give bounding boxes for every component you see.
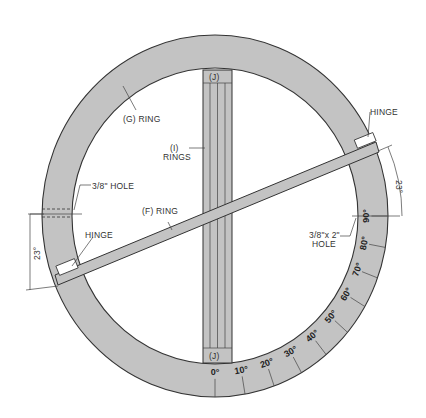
- label-hinge-left: HINGE: [85, 230, 113, 240]
- scale-label: 90°: [361, 209, 371, 223]
- label-f-ring: (F) RING: [142, 206, 178, 216]
- ring-diagram: 0°10°20°30°40°50°60°70°80°90° (G) RING (…: [0, 0, 426, 418]
- label-angle-right: 23°: [394, 180, 404, 193]
- label-hinge-right: HINGE: [370, 107, 398, 117]
- label-g-ring: (G) RING: [123, 114, 160, 124]
- label-j-top: (J): [209, 72, 220, 82]
- label-hole-right-bottom: HOLE: [312, 239, 336, 249]
- label-hole-left: 3/8" HOLE: [92, 181, 134, 191]
- scale-label: 0°: [211, 367, 220, 377]
- label-j-bottom: (J): [209, 351, 220, 361]
- label-angle-left: 23°: [32, 247, 42, 260]
- label-i-rings-bottom: RINGS: [163, 152, 191, 162]
